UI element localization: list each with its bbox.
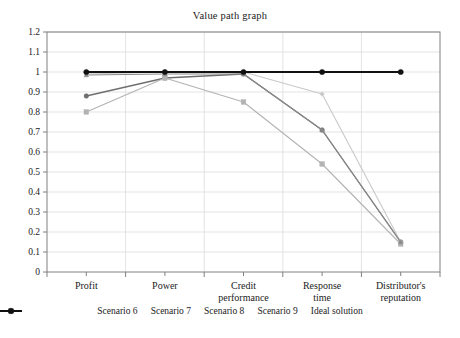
series-line bbox=[86, 74, 400, 242]
x-tick-label: Distributor's bbox=[376, 280, 426, 291]
y-tick-label: 0.4 bbox=[28, 187, 40, 197]
x-tick-label: reputation bbox=[380, 292, 421, 303]
data-point-marker bbox=[84, 94, 89, 99]
x-tick-label: Power bbox=[152, 280, 178, 291]
legend-label: Scenario 8 bbox=[204, 306, 244, 316]
data-point-marker bbox=[241, 69, 246, 74]
y-tick-label: 1.2 bbox=[28, 27, 40, 37]
data-point-marker bbox=[162, 69, 167, 74]
legend-item-scenario-6[interactable]: Scenario 6 bbox=[97, 306, 137, 316]
y-tick-label: 0.1 bbox=[28, 247, 40, 257]
data-point-marker bbox=[8, 308, 14, 314]
x-tick-label: Response bbox=[303, 280, 342, 291]
legend-item-scenario-9[interactable]: Scenario 9 bbox=[257, 306, 297, 316]
data-point-marker bbox=[163, 76, 168, 81]
plot-area: 00.10.20.30.40.50.60.70.80.911.11.2Profi… bbox=[0, 0, 460, 306]
series-line bbox=[86, 72, 400, 242]
legend-marker-icon bbox=[0, 306, 22, 316]
x-tick-label: Credit bbox=[231, 280, 256, 291]
y-tick-label: 0.6 bbox=[28, 147, 40, 157]
legend-item-scenario-7[interactable]: Scenario 7 bbox=[151, 306, 191, 316]
y-tick-label: 0.3 bbox=[28, 207, 40, 217]
x-tick-label: Profit bbox=[75, 280, 98, 291]
y-tick-label: 0.2 bbox=[28, 227, 40, 237]
data-point-marker bbox=[398, 69, 403, 74]
series-line bbox=[86, 74, 400, 242]
y-tick-label: 0.9 bbox=[28, 87, 40, 97]
chart-legend: Scenario 6Scenario 7Scenario 8Scenario 9… bbox=[0, 306, 460, 316]
x-tick-label: performance bbox=[218, 292, 269, 303]
x-tick-label: time bbox=[313, 292, 331, 303]
y-tick-label: 0.8 bbox=[28, 107, 40, 117]
data-point-marker bbox=[320, 162, 325, 167]
y-tick-label: 0 bbox=[35, 267, 40, 277]
data-point-marker bbox=[320, 69, 325, 74]
y-tick-label: 1.1 bbox=[28, 47, 40, 57]
y-tick-label: 0.5 bbox=[28, 167, 40, 177]
legend-label: Scenario 7 bbox=[151, 306, 191, 316]
legend-item-scenario-8[interactable]: Scenario 8 bbox=[204, 306, 244, 316]
value-path-chart: Value path graph 00.10.20.30.40.50.60.70… bbox=[0, 0, 460, 338]
y-tick-label: 0.7 bbox=[28, 127, 40, 137]
data-point-marker bbox=[241, 100, 246, 105]
legend-label: Ideal solution bbox=[311, 306, 363, 316]
data-point-marker bbox=[84, 110, 89, 115]
legend-label: Scenario 6 bbox=[97, 306, 137, 316]
legend-item-ideal-solution[interactable]: Ideal solution bbox=[311, 306, 363, 316]
data-point-marker bbox=[84, 69, 89, 74]
legend-label: Scenario 9 bbox=[257, 306, 297, 316]
y-tick-label: 1 bbox=[35, 67, 40, 77]
